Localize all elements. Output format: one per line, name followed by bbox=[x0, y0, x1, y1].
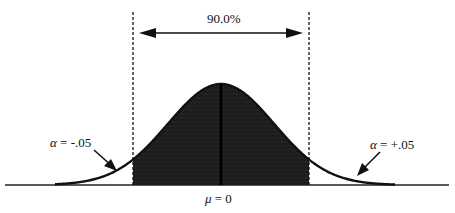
normal-curve-diagram bbox=[0, 0, 455, 213]
right-tail-pointer-arrow bbox=[357, 152, 380, 176]
interval-percent-label: 90.0% bbox=[207, 12, 241, 25]
mean-value: = 0 bbox=[212, 191, 232, 206]
interval-double-arrow bbox=[139, 28, 303, 38]
arrowhead-right-icon bbox=[286, 28, 303, 38]
alpha-symbol: α bbox=[50, 135, 57, 150]
left-tail-pointer-arrow bbox=[94, 150, 117, 171]
left-tail-alpha-label: α = -.05 bbox=[50, 136, 91, 149]
left-tail-value: = -.05 bbox=[57, 135, 91, 150]
right-tail-alpha-label: α = +.05 bbox=[370, 138, 414, 151]
arrowhead-left-icon bbox=[139, 28, 156, 38]
right-tail-value: = +.05 bbox=[377, 137, 414, 152]
alpha-symbol: α bbox=[370, 137, 377, 152]
mean-label: μ = 0 bbox=[205, 192, 232, 205]
